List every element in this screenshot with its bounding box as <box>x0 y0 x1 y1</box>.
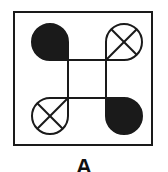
crossed-teardrop-icon-bottom-left <box>32 98 68 134</box>
option-label: A <box>0 156 168 172</box>
puzzle-figure <box>0 0 168 172</box>
filled-teardrop-icon-bottom-right <box>106 98 142 134</box>
crossed-teardrop-icon-top-right <box>106 24 142 60</box>
filled-teardrop-icon-top-left <box>32 24 68 60</box>
inner-square <box>68 60 106 98</box>
